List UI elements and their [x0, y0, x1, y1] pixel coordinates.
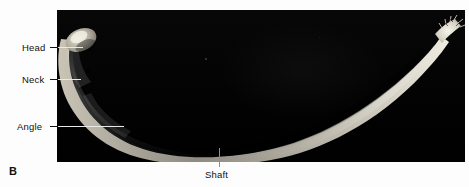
leader-line-angle	[57, 126, 124, 127]
figure-panel: Head Neck Angle Shaft B	[0, 0, 469, 187]
leader-line-head	[57, 47, 83, 48]
label-neck: Neck	[22, 74, 44, 85]
label-dash-angle	[50, 126, 58, 127]
label-angle: Angle	[17, 121, 42, 132]
bone-photograph	[57, 10, 465, 162]
panel-letter-b: B	[9, 165, 17, 177]
label-shaft: Shaft	[205, 169, 228, 180]
label-head: Head	[22, 42, 46, 53]
label-dash-head	[50, 47, 58, 48]
leader-line-shaft	[219, 148, 220, 167]
neck-foramen	[86, 69, 90, 73]
leader-line-neck	[57, 79, 81, 80]
label-dash-neck	[50, 79, 58, 80]
bone-shaft-body	[58, 36, 449, 162]
bone-sternal-end	[435, 19, 461, 43]
rib-bone-illustration	[57, 10, 465, 162]
